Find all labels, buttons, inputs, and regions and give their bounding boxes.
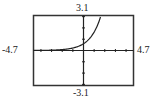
graph-screen [0,0,157,101]
function-curve [34,17,101,50]
